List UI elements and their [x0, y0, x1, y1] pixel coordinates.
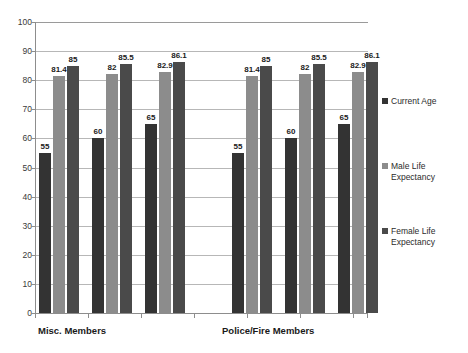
x-tick-mark-7 [367, 313, 368, 318]
bar-value-label: 85.5 [113, 54, 139, 62]
bar-value-label: 86.1 [359, 52, 385, 60]
legend-item[interactable]: Female Life Expectancy [382, 226, 465, 249]
y-tick-label-20: 20 [2, 251, 32, 260]
legend-item[interactable]: Male Life Expectancy [382, 161, 465, 184]
y-axis-tick-labels: 0102030405060708090100 [0, 0, 32, 353]
bar [246, 76, 258, 313]
x-tick-mark-2 [141, 313, 142, 318]
y-tick-label-10: 10 [2, 280, 32, 289]
x-tick-mark-0 [35, 313, 36, 318]
x-tick-mark-5 [300, 313, 301, 318]
bar [260, 66, 272, 313]
x-tick-mark-1 [88, 313, 89, 318]
y-tick-label-30: 30 [2, 222, 32, 231]
gridline-100 [35, 22, 368, 23]
legend-swatch-icon [382, 228, 388, 234]
y-tick-label-0: 0 [2, 309, 32, 318]
bar [159, 72, 171, 313]
bar [299, 74, 311, 313]
y-tick-label-40: 40 [2, 193, 32, 202]
bar-value-label: 85.5 [306, 54, 332, 62]
x-axis-label-1: Police/Fire Members [222, 325, 314, 336]
y-tick-label-50: 50 [2, 164, 32, 173]
bar [39, 153, 51, 313]
bar [352, 72, 364, 313]
x-tick-mark-3 [194, 313, 195, 318]
bar-value-label: 85 [60, 56, 86, 64]
legend-item[interactable]: Current Age [382, 96, 465, 107]
bar-chart: 0102030405060708090100 5581.485608285.56… [0, 0, 468, 353]
y-tick-label-100: 100 [2, 18, 32, 27]
legend-label: Female Life Expectancy [391, 226, 465, 249]
bar [92, 138, 104, 313]
bar [285, 138, 297, 313]
bar-value-label: 86.1 [166, 52, 192, 60]
bar [53, 76, 65, 313]
y-tick-label-70: 70 [2, 105, 32, 114]
bar [67, 66, 79, 313]
legend-swatch-icon [382, 98, 388, 104]
x-axis-label-0: Misc. Members [38, 325, 106, 336]
legend-label: Male Life Expectancy [391, 161, 465, 184]
y-axis-line [35, 22, 36, 314]
y-tick-label-80: 80 [2, 76, 32, 85]
bar [313, 64, 325, 313]
bar [338, 124, 350, 313]
y-tick-label-90: 90 [2, 47, 32, 56]
bar [145, 124, 157, 313]
legend-swatch-icon [382, 163, 388, 169]
bar [173, 62, 185, 313]
plot-area: 5581.485608285.56582.986.15581.485608285… [35, 22, 368, 313]
bar [120, 64, 132, 313]
x-tick-mark-4 [247, 313, 248, 318]
bar [106, 74, 118, 313]
bar-value-label: 85 [253, 56, 279, 64]
x-tick-mark-6 [353, 313, 354, 318]
y-tick-label-60: 60 [2, 134, 32, 143]
bar [232, 153, 244, 313]
legend-label: Current Age [391, 96, 465, 107]
gridline-90 [35, 51, 368, 52]
bar [366, 62, 378, 313]
x-axis-line [35, 313, 368, 314]
